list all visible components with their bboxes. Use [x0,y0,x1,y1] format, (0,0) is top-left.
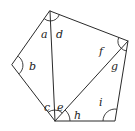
angle-label-d: d [56,28,63,41]
diagonal-bottom-top [50,11,55,121]
angle-label-h: h [74,109,81,122]
angle-arc-a [44,19,50,21]
angle-arc-f [118,37,121,48]
angle-label-e: e [57,101,64,114]
angle-arc-g [121,48,126,51]
angle-arc-d [50,15,59,21]
angle-label-b: b [29,60,36,73]
pentagon-diagram: a d b f g c e h i [0,0,135,131]
angle-label-i: i [99,96,103,109]
angle-label-c: c [44,101,50,114]
angle-label-f: f [98,45,105,58]
angle-label-g: g [111,60,118,73]
angle-arc-b [18,56,23,74]
angle-arc-h [65,110,70,121]
angle-label-a: a [41,28,48,41]
